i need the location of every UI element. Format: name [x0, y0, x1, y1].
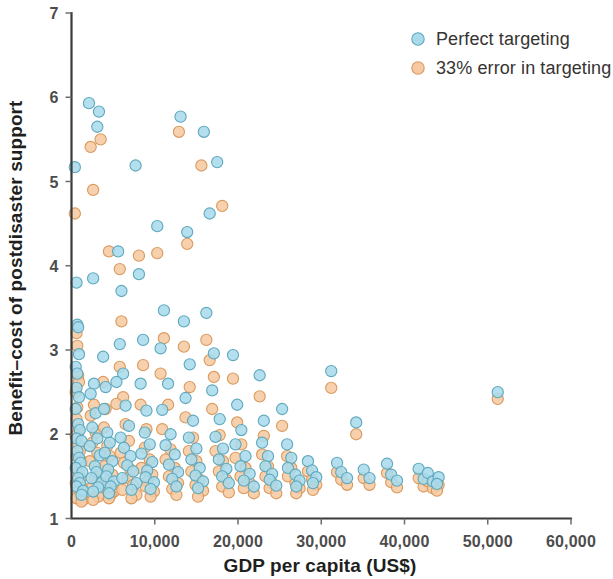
- legend-label-error-targeting: 33% error in targeting: [436, 58, 611, 78]
- data-point: [102, 427, 113, 438]
- data-point: [232, 399, 243, 410]
- y-tick-label: 4: [49, 258, 58, 275]
- data-point: [133, 250, 144, 261]
- data-point: [282, 439, 293, 450]
- data-point: [73, 392, 84, 403]
- data-point: [254, 370, 265, 381]
- data-point: [175, 111, 186, 122]
- legend-label-perfect-targeting: Perfect targeting: [436, 29, 570, 49]
- data-point: [207, 403, 218, 414]
- data-point: [492, 387, 503, 398]
- y-tick-label: 1: [49, 511, 58, 528]
- data-point: [116, 316, 127, 327]
- data-point: [326, 365, 337, 376]
- data-point: [258, 415, 269, 426]
- data-point: [115, 432, 126, 443]
- data-point: [254, 391, 265, 402]
- scatter-chart-figure: 1234567 010,00020,00030,00040,00050,0006…: [0, 0, 613, 579]
- data-point: [217, 200, 228, 211]
- x-tick-label: 40,000: [379, 533, 429, 550]
- data-point: [76, 489, 87, 500]
- x-tick-label: 10,000: [130, 533, 180, 550]
- y-tick-label: 2: [49, 426, 58, 443]
- data-point: [158, 305, 169, 316]
- data-point: [431, 478, 442, 489]
- data-point: [152, 221, 163, 232]
- data-point: [100, 381, 111, 392]
- data-point: [111, 376, 122, 387]
- data-point: [137, 360, 148, 371]
- data-point: [162, 378, 173, 389]
- data-point: [85, 388, 96, 399]
- data-point: [192, 483, 203, 494]
- data-point: [227, 373, 238, 384]
- data-point: [212, 157, 223, 168]
- data-point: [351, 429, 362, 440]
- x-tick-label: 20,000: [213, 533, 263, 550]
- data-point: [87, 422, 98, 433]
- data-point: [214, 413, 225, 424]
- y-tick-label: 5: [49, 174, 58, 191]
- data-point: [240, 451, 251, 462]
- data-point: [341, 472, 352, 483]
- data-point: [186, 454, 197, 465]
- data-point: [92, 121, 103, 132]
- data-point: [157, 404, 168, 415]
- data-point: [208, 371, 219, 382]
- data-point: [133, 269, 144, 280]
- data-point: [191, 443, 202, 454]
- data-point: [73, 322, 84, 333]
- y-axis-title: Benefit–cost of postdisaster support: [5, 100, 26, 436]
- data-point: [213, 454, 224, 465]
- data-point: [126, 484, 137, 495]
- legend-swatch-error-targeting: [412, 62, 424, 74]
- data-point: [351, 417, 362, 428]
- data-point: [201, 307, 212, 318]
- data-point: [98, 403, 109, 414]
- data-point: [113, 246, 124, 257]
- data-point: [116, 285, 127, 296]
- data-point: [117, 472, 128, 483]
- data-point: [210, 431, 221, 442]
- data-point: [88, 273, 99, 284]
- data-point: [184, 359, 195, 370]
- data-point: [72, 368, 83, 379]
- data-point: [135, 378, 146, 389]
- data-point: [120, 400, 131, 411]
- x-tick-label: 30,000: [296, 533, 346, 550]
- data-point: [277, 403, 288, 414]
- data-point: [286, 452, 297, 463]
- data-point: [208, 348, 219, 359]
- data-point: [88, 486, 99, 497]
- data-point: [139, 427, 150, 438]
- data-point: [326, 382, 337, 393]
- data-point: [204, 208, 215, 219]
- data-point: [114, 339, 125, 350]
- data-point: [178, 316, 189, 327]
- data-point: [163, 459, 174, 470]
- x-tick-label: 60,000: [546, 533, 596, 550]
- data-point: [155, 343, 166, 354]
- data-point: [262, 451, 273, 462]
- data-point: [93, 106, 104, 117]
- data-point: [364, 472, 375, 483]
- data-point: [381, 458, 392, 469]
- data-point: [257, 437, 268, 448]
- data-point: [137, 334, 148, 345]
- data-point: [307, 478, 318, 489]
- data-point: [223, 478, 234, 489]
- data-point: [201, 334, 212, 345]
- data-point: [114, 264, 125, 275]
- data-point: [136, 448, 147, 459]
- data-point: [217, 443, 228, 454]
- x-tick-label: 50,000: [463, 533, 513, 550]
- data-point: [123, 420, 134, 431]
- data-point: [155, 368, 166, 379]
- x-axis-title: GDP per capita (US$): [224, 555, 417, 576]
- data-point: [95, 134, 106, 145]
- data-point: [141, 405, 152, 416]
- data-point: [158, 333, 169, 344]
- data-point: [173, 126, 184, 137]
- data-point: [198, 126, 209, 137]
- data-point: [88, 184, 99, 195]
